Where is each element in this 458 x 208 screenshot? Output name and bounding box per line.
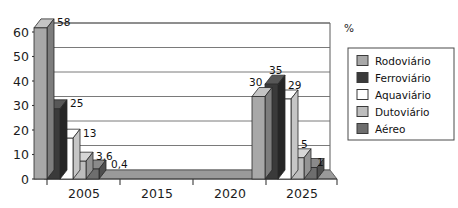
data-label-13: 13 [83, 127, 96, 139]
legend-item-aquaviario[interactable]: Aquaviário [357, 89, 431, 101]
bar-2005-rodoviario [34, 19, 54, 179]
legend-label-dutoviario: Dutoviário [375, 106, 430, 118]
bar-2025-rodoviario [252, 88, 272, 180]
y-tick-50: 50 [13, 49, 29, 64]
unit-percent-label: % [344, 22, 354, 34]
bar-chart: 60 50 40 30 20 10 0 2005 2015 2020 2025 [0, 0, 458, 208]
data-label-0-4: 0,4 [111, 158, 128, 170]
legend-item-rodoviario[interactable]: Rodoviário [357, 55, 431, 67]
x-tick-2025: 2025 [286, 186, 318, 201]
y-tick-60: 60 [13, 25, 29, 40]
data-label-25: 25 [70, 97, 83, 109]
data-label-5: 5 [301, 138, 308, 150]
legend-label-aquaviario: Aquaviário [375, 89, 431, 101]
x-tick-2005: 2005 [68, 186, 100, 201]
y-tick-40: 40 [13, 74, 29, 89]
data-label-30: 30 [249, 76, 262, 88]
x-axis-labels: 2005 2015 2020 2025 [68, 186, 318, 201]
chart-container: 60 50 40 30 20 10 0 2005 2015 2020 2025 [0, 0, 458, 208]
y-tick-10: 10 [13, 147, 29, 162]
y-tick-0: 0 [21, 172, 29, 187]
legend-label-rodoviario: Rodoviário [375, 55, 431, 67]
legend-swatch-dutoviario [357, 107, 368, 117]
legend-swatch-rodoviario [357, 56, 368, 66]
legend-item-ferroviario[interactable]: Ferroviário [357, 72, 431, 84]
data-label-35: 35 [269, 64, 282, 76]
data-label-1: 1 [317, 156, 324, 168]
legend-item-dutoviario[interactable]: Dutoviário [357, 106, 430, 118]
legend-swatch-ferroviario [357, 73, 368, 83]
y-axis-tick-labels: 60 50 40 30 20 10 0 [13, 25, 29, 187]
y-tick-20: 20 [13, 123, 29, 138]
legend: Rodoviário Ferroviário Aquaviário Dutovi… [348, 48, 454, 140]
x-axis [37, 179, 337, 185]
legend-label-ferroviario: Ferroviário [375, 72, 431, 84]
x-tick-2020: 2020 [214, 186, 246, 201]
x-tick-2015: 2015 [141, 186, 173, 201]
data-label-58: 58 [57, 16, 70, 28]
legend-swatch-aquaviario [357, 90, 368, 100]
data-label-29: 29 [288, 79, 301, 91]
legend-item-aereo[interactable]: Aéreo [357, 123, 405, 135]
legend-label-aereo: Aéreo [375, 123, 405, 135]
y-tick-30: 30 [13, 98, 29, 113]
legend-swatch-aereo [357, 124, 368, 134]
